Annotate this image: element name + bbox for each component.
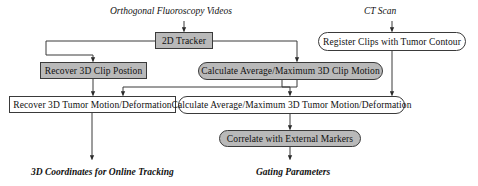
node-register-clips[interactable]: Register Clips with Tumor Contour: [318, 32, 466, 51]
edge-tracker-to-clip-motion: [213, 41, 297, 62]
node-calculate-clip-motion[interactable]: Calculate Average/Maximum 3D Clip Motion: [198, 62, 383, 80]
node-calculate-tumor-motion[interactable]: Calculate Average/Maximum 3D Tumor Motio…: [178, 96, 405, 114]
edge-clip-motion-to-tumor-avg: [282, 78, 290, 96]
edge-tracker-to-clip-position: [46, 41, 155, 62]
input-label-fluoroscopy: Orthogonal Fluoroscopy Videos: [110, 6, 232, 16]
output-label-3d-coordinates: 3D Coordinates for Online Tracking: [31, 167, 174, 177]
node-2d-tracker[interactable]: 2D Tracker: [155, 32, 213, 49]
flowchart-diagram: Orthogonal Fluoroscopy Videos CT Scan 2D…: [0, 0, 478, 186]
edge-clip-motion-to-tumor-motion: [123, 78, 297, 96]
node-correlate-external-markers[interactable]: Correlate with External Markers: [219, 130, 361, 147]
input-label-ct-scan: CT Scan: [364, 6, 396, 16]
node-recover-clip-position[interactable]: Recover 3D Clip Postion: [40, 62, 147, 79]
output-label-gating-parameters: Gating Parameters: [256, 167, 330, 177]
edge-layer: [0, 0, 478, 186]
node-recover-tumor-motion[interactable]: Recover 3D Tumor Motion/Deformation: [9, 96, 176, 113]
